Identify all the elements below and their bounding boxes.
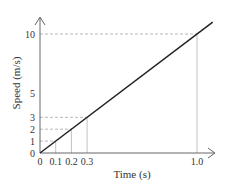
speed-time-chart: 012351000.10.20.31.0Time (s)Speed (m/s) (0, 0, 229, 187)
speed-line (40, 22, 213, 153)
x-tick-label: 0 (38, 156, 43, 167)
y-tick-label: 2 (30, 124, 35, 135)
y-tick-label: 5 (30, 88, 35, 99)
x-tick-label: 0.3 (81, 156, 94, 167)
y-tick-label: 3 (30, 112, 35, 123)
y-axis-label: Speed (m/s) (10, 56, 23, 109)
y-tick-label: 1 (30, 136, 35, 147)
x-axis-label: Time (s) (113, 168, 151, 181)
x-tick-label: 0.1 (49, 156, 62, 167)
y-tick-label: 10 (25, 29, 35, 40)
x-tick-label: 1.0 (191, 156, 204, 167)
y-tick-label: 0 (30, 148, 35, 159)
x-tick-label: 0.2 (65, 156, 78, 167)
